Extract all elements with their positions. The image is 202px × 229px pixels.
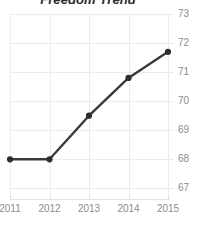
y-tick-69 [169, 130, 173, 131]
y-tick-71 [169, 72, 173, 73]
x-tick-2011 [10, 195, 11, 200]
x-tick-2014 [129, 195, 130, 200]
x-tick-2013 [89, 195, 90, 200]
y-tick-70 [169, 101, 173, 102]
y-label-67: 67 [178, 182, 200, 193]
y-tick-73 [169, 14, 173, 15]
y-label-70: 70 [178, 95, 200, 106]
freedom-trend-chart: Freedom Trend 20112012201320142015 67686… [0, 0, 202, 229]
y-tick-68 [169, 159, 173, 160]
x-label-2012: 2012 [30, 203, 70, 214]
x-label-2015: 2015 [148, 203, 188, 214]
plot-area [10, 14, 168, 200]
gridline-x-2015 [168, 14, 169, 200]
gridline-x-2013 [89, 14, 90, 200]
x-tick-2012 [50, 195, 51, 200]
x-label-2013: 2013 [69, 203, 109, 214]
y-tick-67 [169, 188, 173, 189]
x-label-2011: 2011 [0, 203, 30, 214]
x-axis-line [10, 199, 170, 200]
gridline-x-2011 [10, 14, 11, 200]
y-tick-72 [169, 43, 173, 44]
y-label-73: 73 [178, 8, 200, 19]
x-label-2014: 2014 [109, 203, 149, 214]
y-label-69: 69 [178, 124, 200, 135]
y-label-71: 71 [178, 66, 200, 77]
chart-title: Freedom Trend [0, 0, 176, 7]
y-label-68: 68 [178, 153, 200, 164]
y-label-72: 72 [178, 37, 200, 48]
gridline-x-2012 [50, 14, 51, 200]
x-tick-2015 [168, 195, 169, 200]
gridline-x-2014 [129, 14, 130, 200]
